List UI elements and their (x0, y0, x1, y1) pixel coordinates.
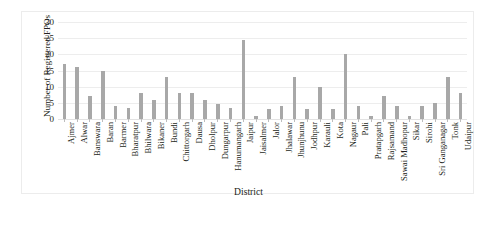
bar-slot (275, 22, 288, 119)
x-label-slot: Bundi (160, 122, 173, 188)
bar (88, 96, 92, 119)
bar (446, 77, 450, 119)
x-category-label: Udaipur (461, 122, 470, 150)
y-tick-label-5: 5 (50, 98, 55, 107)
bar-slot (263, 22, 276, 119)
bar-slot (403, 22, 416, 119)
x-label-slot: Sri Ganganagar (429, 122, 442, 188)
x-label-slot: Udaipur (454, 122, 467, 188)
bar-slot (326, 22, 339, 119)
bar-slot (454, 22, 467, 119)
bar-slot (237, 22, 250, 119)
bar (293, 77, 297, 119)
x-label-slot: Jaipur (237, 122, 250, 188)
plot-area: 051015202530 (58, 22, 467, 119)
bar-slot (135, 22, 148, 119)
bar (344, 54, 348, 119)
bar-slot (429, 22, 442, 119)
bar (459, 93, 463, 119)
x-label-slot: Barmer (109, 122, 122, 188)
bar-slot (109, 22, 122, 119)
bar (101, 71, 105, 120)
x-label-slot: Bikaner (147, 122, 160, 188)
bar (139, 93, 143, 119)
bar-slot (58, 22, 71, 119)
bar (216, 104, 220, 119)
bar (382, 96, 386, 119)
bar-slot (122, 22, 135, 119)
bar (331, 109, 335, 119)
x-label-slot: Kota (326, 122, 339, 188)
bar (242, 40, 246, 119)
x-label-slot: Banswara (84, 122, 97, 188)
bar (280, 106, 284, 119)
y-tick-label-25: 25 (45, 34, 54, 43)
x-label-slot: Rajsamand (378, 122, 391, 188)
bar-slot (211, 22, 224, 119)
bar (190, 93, 194, 119)
bar-slot (314, 22, 327, 119)
x-label-slot: Jodhpur (301, 122, 314, 188)
bar (420, 106, 424, 119)
y-tick-label-20: 20 (45, 50, 54, 59)
bar (305, 109, 309, 119)
y-tick-label-30: 30 (45, 18, 54, 27)
x-label-slot: Alwar (71, 122, 84, 188)
x-label-slot: Sirohi (416, 122, 429, 188)
bar (114, 106, 118, 119)
x-label-slot: Sawai Madhopur (390, 122, 403, 188)
bar-slot (96, 22, 109, 119)
bar-slot (199, 22, 212, 119)
bar (178, 93, 182, 119)
bar (229, 108, 233, 119)
bar-slot (160, 22, 173, 119)
bar-slot (441, 22, 454, 119)
bar-slot (147, 22, 160, 119)
bar (267, 109, 271, 119)
x-label-slot: Karauli (314, 122, 327, 188)
x-label-slot: Dausa (186, 122, 199, 188)
bar-series (58, 22, 467, 119)
bar-slot (288, 22, 301, 119)
bar (152, 100, 156, 119)
bar (127, 108, 131, 119)
bar (357, 106, 361, 119)
bar (203, 100, 207, 119)
x-label-slot: Sikar (403, 122, 416, 188)
x-label-slot: Nagaur (339, 122, 352, 188)
bar-slot (250, 22, 263, 119)
bar-slot (352, 22, 365, 119)
bar (75, 67, 79, 119)
x-label-slot: Tonk (441, 122, 454, 188)
x-label-slot: Jhalawar (275, 122, 288, 188)
bar (395, 106, 399, 119)
figure-container: Number of Registered FPOs 051015202530 A… (0, 0, 495, 228)
bar (433, 103, 437, 119)
bar-slot (84, 22, 97, 119)
chart-frame: Number of Registered FPOs 051015202530 A… (21, 11, 474, 194)
x-label-slot: Jhunjhunu (288, 122, 301, 188)
x-axis-category-labels: AjmerAlwarBanswaraBaranBarmerBharatpurBh… (58, 122, 467, 188)
x-label-slot: Bharatpur (122, 122, 135, 188)
x-label-slot: Pali (352, 122, 365, 188)
x-axis-title: District (22, 186, 475, 197)
bar-slot (301, 22, 314, 119)
bar-slot (365, 22, 378, 119)
bar-slot (186, 22, 199, 119)
y-tick-label-15: 15 (45, 66, 54, 75)
bar-slot (224, 22, 237, 119)
x-label-slot: Dholpur (199, 122, 212, 188)
bar-slot (416, 22, 429, 119)
x-label-slot: Jalor (263, 122, 276, 188)
clipped-caption-text (0, 0, 495, 8)
bar-slot (390, 22, 403, 119)
bar (63, 64, 67, 119)
bar-slot (173, 22, 186, 119)
x-label-slot: Hanumangarh (224, 122, 237, 188)
bar-slot (378, 22, 391, 119)
bar (318, 87, 322, 119)
bar-slot (71, 22, 84, 119)
x-label-slot: Ajmer (58, 122, 71, 188)
x-label-slot: Dungarpur (211, 122, 224, 188)
x-label-slot: Jaisalmer (250, 122, 263, 188)
